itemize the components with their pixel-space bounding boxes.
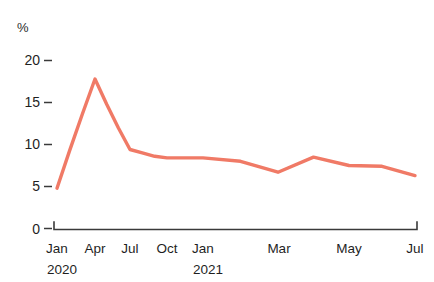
- x-year-label-2021: 2021: [193, 262, 223, 277]
- x-axis-line: [54, 222, 417, 230]
- x-tick-label-jul-2020: Jul: [121, 241, 138, 256]
- x-year-label-2020: 2020: [47, 262, 77, 277]
- y-tick-label-5: 5: [32, 178, 40, 194]
- x-tick-label-apr-2020: Apr: [84, 241, 106, 256]
- x-tick-label-jan-2020: Jan: [46, 241, 68, 256]
- x-tick-label-jul-2021: Jul: [406, 241, 423, 256]
- x-tick-label-may-2021: May: [336, 241, 362, 256]
- y-tick-label-15: 15: [24, 94, 40, 110]
- chart-container: % 20 15 10 5 0 Jan Apr Jul Oct Jan Mar M…: [0, 0, 434, 282]
- y-tick-label-0: 0: [32, 221, 40, 237]
- x-tick-label-mar-2021: Mar: [267, 241, 291, 256]
- data-series-line: [57, 79, 415, 188]
- x-tick-label-jan-2021: Jan: [192, 241, 214, 256]
- y-tick-label-20: 20: [24, 52, 40, 68]
- y-tick-label-10: 10: [24, 136, 40, 152]
- y-axis-unit-label: %: [17, 20, 29, 35]
- x-tick-label-oct-2020: Oct: [156, 241, 177, 256]
- line-chart: % 20 15 10 5 0 Jan Apr Jul Oct Jan Mar M…: [0, 0, 434, 282]
